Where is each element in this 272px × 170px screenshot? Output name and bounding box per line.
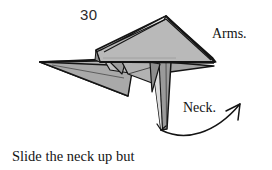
arms-shape bbox=[95, 16, 216, 63]
label-arms: Arms. bbox=[212, 26, 247, 42]
step-number: 30 bbox=[80, 6, 98, 23]
origami-diagram-page: 30 Arms. Neck. Slide the neck up but do … bbox=[0, 0, 272, 170]
neck-shape bbox=[150, 60, 171, 130]
label-neck: Neck. bbox=[183, 100, 216, 116]
neck-edge-line bbox=[166, 62, 167, 126]
instruction-caption: Slide the neck up but do not disturb the… bbox=[12, 118, 134, 170]
caption-line-1: Slide the neck up but bbox=[12, 149, 134, 165]
arms-bottom-edge bbox=[100, 62, 214, 63]
